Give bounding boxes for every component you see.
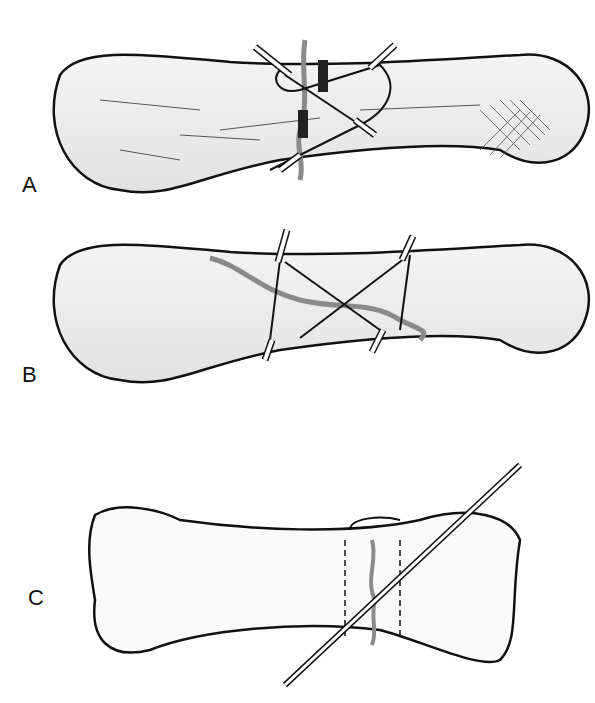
panel-a-bone xyxy=(54,40,589,192)
panel-label-a: A xyxy=(22,172,37,198)
figure-canvas xyxy=(0,0,595,703)
panel-b-bone xyxy=(54,230,589,382)
panel-label-c: C xyxy=(28,585,44,611)
panel-label-b: B xyxy=(22,362,37,388)
wire-twist-icon xyxy=(318,60,328,92)
panel-c-bone xyxy=(89,465,520,685)
wire-twist-icon xyxy=(298,110,308,138)
